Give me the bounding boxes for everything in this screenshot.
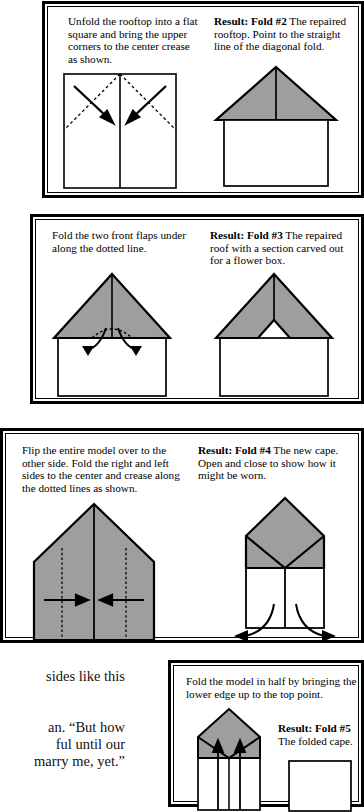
panel-fold-2-inner: Unfold the rooftop into a flat square an… [47, 6, 359, 193]
instruction-fold-4: Flip the entire model over to the other … [22, 444, 186, 494]
result-fold-4: Result: Fold #4 The new cape. Open and c… [198, 444, 354, 482]
result-fold-2: Result: Fold #2 The repaired rooftop. Po… [214, 15, 350, 53]
result-text-fold-5: The folded cape. [278, 735, 353, 747]
margin-text-bottom: sides like this an. “But how ful until o… [0, 668, 125, 770]
panel-fold-3: Fold the two front flaps under along the… [30, 214, 364, 404]
result-label-fold-3: Result: Fold #3 [210, 229, 283, 241]
margin-fragment: sides like this [0, 668, 125, 685]
instruction-fold-3: Fold the two front flaps under along the… [52, 229, 194, 254]
instruction-fold-5: Fold the model in half by bringing the l… [186, 675, 362, 700]
result-fold-3: Result: Fold #3 The repaired roof with a… [210, 229, 356, 267]
figure-roof-carved-notch [212, 270, 336, 398]
panel-fold-5: Fold the model in half by bringing the l… [168, 660, 364, 807]
margin-gap [0, 685, 125, 719]
figure-plain-rectangle [288, 760, 358, 812]
panel-fold-3-inner: Fold the two front flaps under along the… [35, 219, 359, 399]
panel-fold-2: Unfold the rooftop into a flat square an… [42, 1, 364, 198]
figure-pentagon-inward-arrows [26, 500, 162, 642]
figure-flat-square [63, 73, 177, 189]
figure-house-gray-roof [214, 65, 338, 189]
panel-fold-4-inner: Flip the entire model over to the other … [5, 433, 359, 638]
result-fold-5: Result: Fold #5 The folded cape. [278, 722, 364, 747]
result-label-fold-4: Result: Fold #4 [198, 444, 271, 456]
margin-fragment: marry me, yet.” [0, 753, 125, 770]
figure-cape-up-arrows [182, 706, 278, 812]
instruction-fold-2: Unfold the rooftop into a flat square an… [68, 15, 198, 65]
margin-fragment: an. “But how [0, 719, 125, 736]
figure-roof-fold-arrows [50, 270, 174, 398]
result-label-fold-2: Result: Fold #2 [214, 15, 287, 27]
margin-fragment: ful until our [0, 736, 125, 753]
figure-cape-outward-arrows [222, 494, 358, 644]
panel-fold-4: Flip the entire model over to the other … [0, 428, 364, 643]
panel-fold-5-inner: Fold the model in half by bringing the l… [173, 665, 359, 802]
result-label-fold-5: Result: Fold #5 [278, 722, 351, 734]
